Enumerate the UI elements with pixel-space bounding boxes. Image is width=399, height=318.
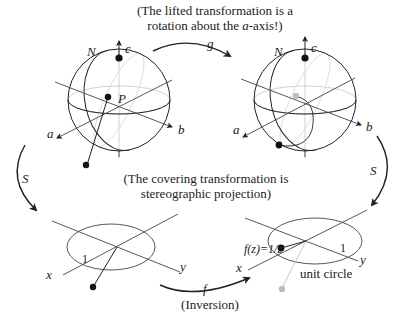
right-sphere: N c a b	[233, 37, 373, 158]
diagram-canvas: (The lifted transformation is a rotation…	[0, 0, 399, 318]
north-label: N	[86, 44, 97, 59]
top-caption-line2: rotation about the a-axis!)	[147, 18, 282, 33]
ghost-point-right-sphere	[293, 93, 299, 99]
projected-point-left-plane	[90, 284, 96, 290]
axis-y-label-right: y	[358, 252, 366, 267]
north-pole-point	[115, 54, 122, 61]
axis-a-label: a	[47, 126, 54, 141]
arrow-s-left-label: S	[22, 171, 29, 186]
arrow-s-right-label: S	[370, 163, 377, 178]
arrow-f-label: f	[203, 281, 209, 296]
unit-label-left: 1	[82, 252, 88, 266]
ghost-point-right-plane	[279, 286, 285, 292]
axis-b-label-right: b	[366, 119, 373, 134]
north-label-right: N	[273, 44, 284, 59]
axis-x-label: x	[45, 267, 52, 282]
axis-c-label-right: c	[311, 40, 317, 55]
diagram-svg: (The lifted transformation is a rotation…	[0, 0, 399, 318]
left-sphere: N c a b P	[47, 41, 185, 168]
top-caption-line1: (The lifted transformation is a	[137, 3, 293, 18]
point-p-label: P	[117, 91, 126, 106]
axis-a-label-right: a	[233, 122, 240, 137]
arrow-g-label: g	[207, 36, 214, 51]
point-p	[105, 94, 111, 100]
axis-c-label: c	[125, 41, 131, 56]
rotated-point-right-sphere	[276, 142, 283, 149]
unit-label-right: 1	[340, 241, 346, 255]
middle-caption-line1: (The covering transformation is	[124, 171, 289, 186]
axis-b-label: b	[178, 122, 185, 137]
axis-y-label: y	[178, 259, 186, 274]
unit-circle-label: unit circle	[300, 266, 353, 281]
right-plane: f(z)=1/z x y 1 unit circle	[235, 210, 367, 292]
bottom-caption: (Inversion)	[181, 297, 239, 312]
inversion-formula-label: f(z)=1/z	[244, 242, 282, 256]
axis-x-label-right: x	[235, 260, 242, 275]
middle-caption-line2: stereographic projection)	[141, 186, 271, 201]
north-pole-point-right	[301, 54, 308, 61]
arrow-g	[153, 43, 230, 56]
left-plane: x y 1	[45, 214, 186, 290]
projected-point-left-sphere	[83, 162, 89, 168]
